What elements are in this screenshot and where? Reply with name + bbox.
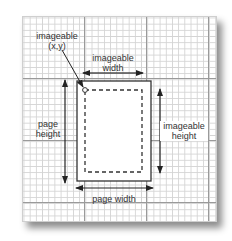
- imageable-width-label-line1: imageable: [86, 53, 140, 63]
- page-width-label-text: page width: [88, 194, 140, 204]
- imageable-xy-label-line2: (x,y): [30, 41, 84, 51]
- imageable-height-label: imageable height: [160, 121, 208, 141]
- imageable-height-label-line2: height: [160, 131, 208, 141]
- page-height-label-line1: page: [30, 119, 66, 129]
- imageable-xy-label: imageable (x,y): [30, 31, 84, 51]
- page-rectangle: [77, 81, 151, 181]
- page-height-label-line2: height: [30, 129, 66, 139]
- imageable-height-label-line1: imageable: [160, 121, 208, 131]
- imageable-width-label-line2: width: [86, 63, 140, 73]
- page-width-label: page width: [88, 194, 140, 204]
- page-height-label: page height: [30, 119, 66, 139]
- imageable-origin-marker: [83, 88, 88, 93]
- imageable-width-label: imageable width: [86, 53, 140, 73]
- imageable-xy-label-line1: imageable: [30, 31, 84, 41]
